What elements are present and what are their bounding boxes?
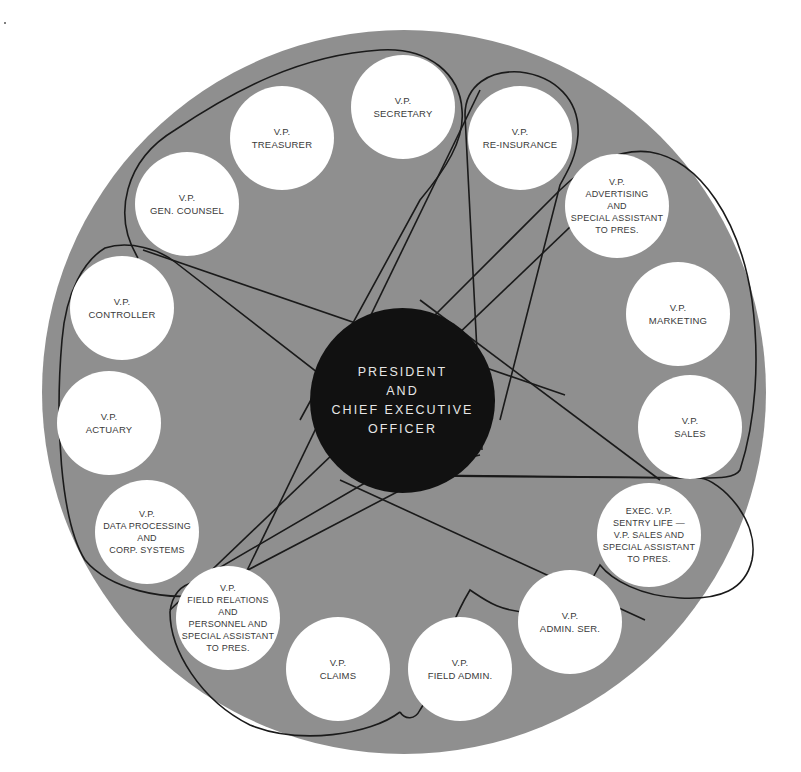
- node-admin-ser: V.P. ADMIN. SER.: [518, 570, 622, 674]
- node-label: V.P. CLAIMS: [320, 656, 357, 682]
- node-label: V.P. RE-INSURANCE: [483, 125, 558, 151]
- node-label: V.P. SALES: [674, 414, 706, 440]
- node-label: V.P. ACTUARY: [86, 410, 133, 436]
- president-ceo-label: PRESIDENT AND CHIEF EXECUTIVE OFFICER: [332, 363, 474, 439]
- node-sales: V.P. SALES: [638, 375, 742, 479]
- node-claims: V.P. CLAIMS: [286, 617, 390, 721]
- node-label: V.P. GEN. COUNSEL: [150, 191, 224, 217]
- node-label: V.P. SECRETARY: [374, 94, 433, 120]
- node-label: V.P. ADVERTISING AND SPECIAL ASSISTANT T…: [571, 176, 663, 236]
- node-label: V.P. DATA PROCESSING AND CORP. SYSTEMS: [103, 508, 191, 556]
- node-label: V.P. MARKETING: [649, 301, 707, 327]
- node-label: V.P. ADMIN. SER.: [540, 609, 600, 635]
- node-gen-counsel: V.P. GEN. COUNSEL: [135, 152, 239, 256]
- node-data-processing: V.P. DATA PROCESSING AND CORP. SYSTEMS: [95, 480, 199, 584]
- node-re-insurance: V.P. RE-INSURANCE: [468, 86, 572, 190]
- node-controller: V.P. CONTROLLER: [70, 256, 174, 360]
- node-label: EXEC. V.P. SENTRY LIFE — V.P. SALES AND …: [603, 505, 695, 565]
- node-field-relations: V.P. FIELD RELATIONS AND PERSONNEL AND S…: [176, 566, 280, 670]
- node-advertising: V.P. ADVERTISING AND SPECIAL ASSISTANT T…: [565, 154, 669, 258]
- president-ceo-node: PRESIDENT AND CHIEF EXECUTIVE OFFICER: [310, 308, 495, 493]
- node-field-admin: V.P. FIELD ADMIN.: [408, 617, 512, 721]
- node-exec-vp-sentry-life: EXEC. V.P. SENTRY LIFE — V.P. SALES AND …: [597, 483, 701, 587]
- node-marketing: V.P. MARKETING: [626, 262, 730, 366]
- node-label: V.P. CONTROLLER: [89, 295, 156, 321]
- node-secretary: V.P. SECRETARY: [351, 55, 455, 159]
- node-label: V.P. TREASURER: [252, 125, 312, 151]
- node-label: V.P. FIELD RELATIONS AND PERSONNEL AND S…: [182, 582, 274, 654]
- scan-speck: [4, 22, 6, 24]
- org-chart: PRESIDENT AND CHIEF EXECUTIVE OFFICER V.…: [0, 0, 801, 772]
- node-label: V.P. FIELD ADMIN.: [428, 656, 493, 682]
- node-treasurer: V.P. TREASURER: [230, 86, 334, 190]
- node-actuary: V.P. ACTUARY: [57, 371, 161, 475]
